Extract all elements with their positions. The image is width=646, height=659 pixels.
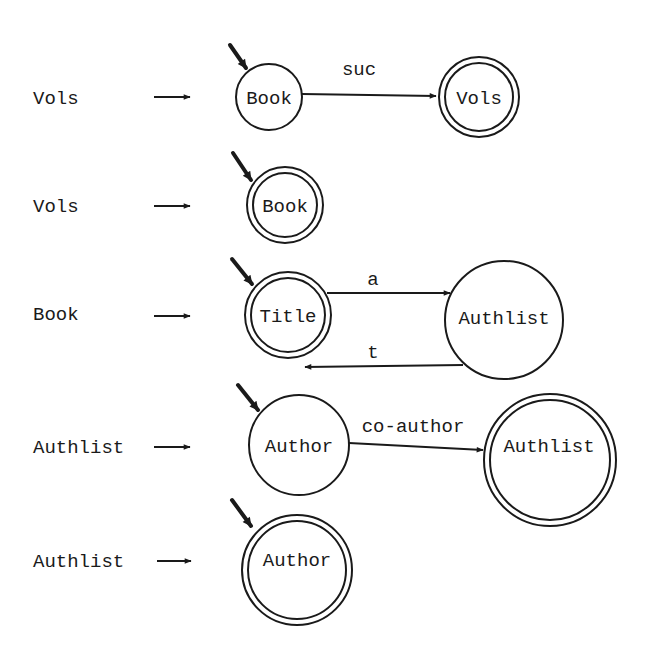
- state-author: Author: [249, 395, 349, 495]
- state-label: Book: [246, 88, 292, 110]
- transition-label-suc: suc: [342, 59, 376, 81]
- state-diagram: Vols Book suc Vols Vols Book Book: [0, 0, 646, 659]
- transition-arrow-icon: [305, 365, 463, 367]
- transition-label-a: a: [367, 269, 378, 291]
- row-3-lhs-label: Book: [33, 304, 79, 326]
- transition-label-t: t: [367, 342, 378, 364]
- state-title-final: Title: [245, 272, 331, 358]
- state-label: Title: [259, 306, 316, 328]
- row-2: Vols Book: [33, 153, 323, 243]
- state-label: Vols: [456, 88, 502, 110]
- start-arrow-icon: [238, 385, 258, 410]
- row-1-lhs-label: Vols: [33, 88, 79, 110]
- state-label: Book: [262, 196, 308, 218]
- row-2-lhs-label: Vols: [33, 196, 79, 218]
- transition-arrow-icon: [302, 94, 436, 96]
- row-4: Authlist Author co-author Authlist: [33, 385, 616, 526]
- transition-arrow-icon: [349, 443, 483, 450]
- transition-label-co-author: co-author: [362, 416, 465, 438]
- row-5: Authlist Author: [33, 500, 352, 625]
- row-3: Book Title a t Authlist: [33, 259, 563, 379]
- state-inner-circle: [490, 400, 610, 520]
- state-label: Author: [263, 550, 331, 572]
- state-label: Authlist: [503, 436, 594, 458]
- state-vols-final: Vols: [439, 57, 519, 137]
- state-authlist: Authlist: [445, 261, 563, 379]
- row-4-lhs-label: Authlist: [33, 437, 124, 459]
- state-label: Author: [265, 436, 333, 458]
- state-book-final: Book: [247, 167, 323, 243]
- start-arrow-icon: [230, 45, 246, 68]
- start-arrow-icon: [232, 259, 252, 284]
- state-author-final: Author: [242, 515, 352, 625]
- row-1: Vols Book suc Vols: [33, 45, 519, 137]
- start-arrow-icon: [232, 500, 251, 526]
- row-5-lhs-label: Authlist: [33, 551, 124, 573]
- start-arrow-icon: [233, 153, 251, 180]
- state-label: Authlist: [458, 308, 549, 330]
- state-outer-circle: [484, 394, 616, 526]
- state-book: Book: [236, 64, 302, 130]
- state-authlist-final: Authlist: [484, 394, 616, 526]
